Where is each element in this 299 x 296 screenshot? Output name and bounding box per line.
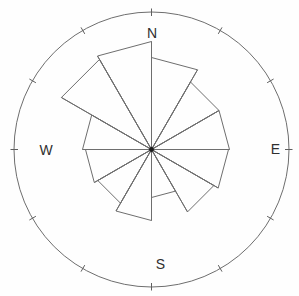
compass-label-e: E bbox=[271, 141, 280, 157]
wind-rose-svg: NESW bbox=[0, 0, 299, 296]
wind-sector-petal bbox=[152, 82, 220, 150]
sector-boundary-line bbox=[152, 150, 219, 189]
wind-sector-petal bbox=[98, 42, 152, 150]
wind-rose-chart: NESW bbox=[0, 0, 299, 296]
wind-sector-petal bbox=[152, 150, 214, 212]
sector-boundary-line bbox=[61, 98, 151, 150]
compass-label-n: N bbox=[147, 25, 157, 41]
sector-boundary-line bbox=[152, 150, 188, 212]
sector-boundary-line bbox=[152, 111, 220, 150]
center-dot bbox=[149, 147, 154, 152]
compass-label-s: S bbox=[156, 256, 165, 272]
compass-label-w: W bbox=[39, 142, 53, 158]
sector-boundary-line bbox=[98, 56, 152, 150]
wind-sector-petal bbox=[61, 59, 151, 149]
sector-boundary-line bbox=[116, 150, 152, 212]
sector-boundary-line bbox=[94, 150, 151, 183]
sector-boundary-line bbox=[152, 70, 198, 150]
